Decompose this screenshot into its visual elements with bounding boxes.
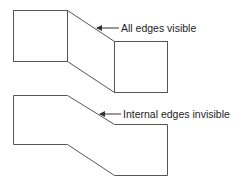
top-connecting-edge (68, 11, 115, 42)
bottom-connecting-edge (68, 62, 115, 93)
right-square (115, 42, 168, 93)
left-square (14, 11, 68, 62)
label-all-edges-visible: All edges visible (121, 22, 196, 34)
label-internal-edges-invisible: Internal edges invisible (123, 108, 230, 120)
